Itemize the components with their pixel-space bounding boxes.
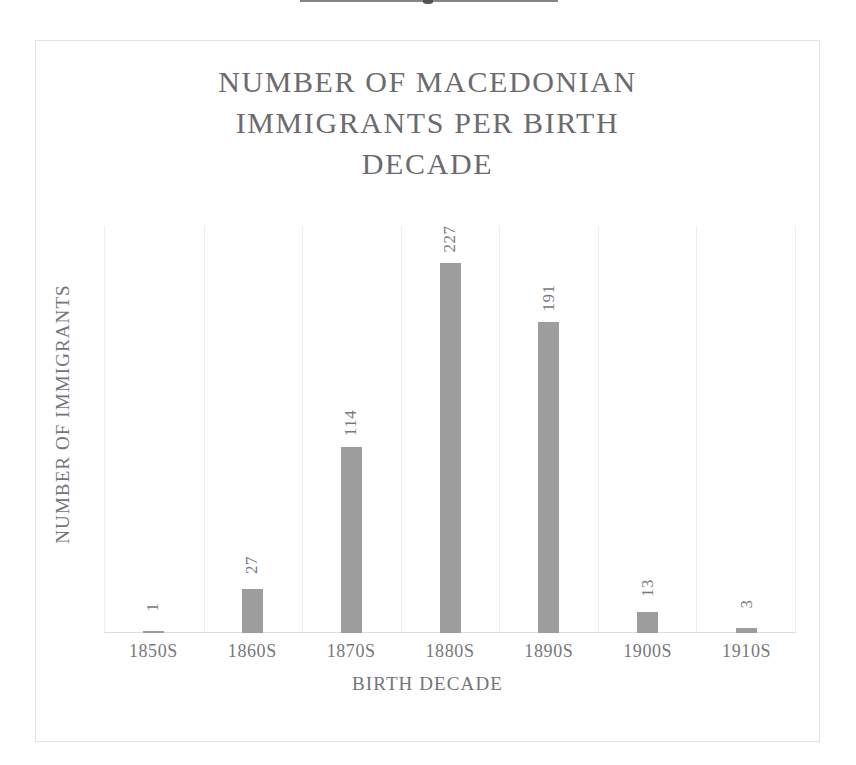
x-axis-tick-1910s: 1910S bbox=[697, 641, 796, 662]
y-axis-title: NUMBER OF IMMIGRANTS bbox=[52, 244, 74, 584]
x-axis-tick-1900s: 1900S bbox=[598, 641, 697, 662]
bar-value-label: 3 bbox=[737, 600, 757, 609]
bar-value-label: 227 bbox=[440, 226, 460, 253]
bar-value-label: 191 bbox=[539, 285, 559, 312]
chart-title: NUMBER OF MACEDONIAN IMMIGRANTS PER BIRT… bbox=[36, 61, 819, 184]
bar-group: 27 bbox=[203, 226, 302, 633]
top-partial-rule-ornament bbox=[423, 0, 433, 4]
bar-value-label: 114 bbox=[341, 410, 361, 436]
x-axis-tick-labels: 1850S1860S1870S1880S1890S1900S1910S bbox=[104, 641, 796, 662]
x-axis-tick-1870s: 1870S bbox=[302, 641, 401, 662]
x-axis-tick-1890s: 1890S bbox=[499, 641, 598, 662]
x-axis-tick-1860s: 1860S bbox=[203, 641, 302, 662]
chart-container: NUMBER OF MACEDONIAN IMMIGRANTS PER BIRT… bbox=[35, 40, 820, 742]
bar-value-label: 27 bbox=[242, 556, 262, 574]
x-axis-title: BIRTH DECADE bbox=[36, 673, 819, 695]
bar bbox=[143, 631, 164, 633]
bar-group: 1 bbox=[104, 226, 203, 633]
bar-value-label: 1 bbox=[143, 603, 163, 612]
bar-series: 127114227191133 bbox=[104, 226, 796, 633]
bar bbox=[538, 322, 559, 633]
plot-area-wrapper: 127114227191133 bbox=[104, 226, 796, 633]
bar bbox=[341, 447, 362, 633]
x-axis-tick-1880s: 1880S bbox=[401, 641, 500, 662]
bar-value-label: 13 bbox=[638, 579, 658, 597]
x-axis-tick-1850s: 1850S bbox=[104, 641, 203, 662]
bar-group: 227 bbox=[401, 226, 500, 633]
bar bbox=[440, 263, 461, 633]
bar bbox=[736, 628, 757, 633]
bar-group: 114 bbox=[302, 226, 401, 633]
bar-group: 191 bbox=[499, 226, 598, 633]
bar bbox=[637, 612, 658, 633]
bar-group: 13 bbox=[598, 226, 697, 633]
bar-group: 3 bbox=[697, 226, 796, 633]
bar bbox=[242, 589, 263, 633]
